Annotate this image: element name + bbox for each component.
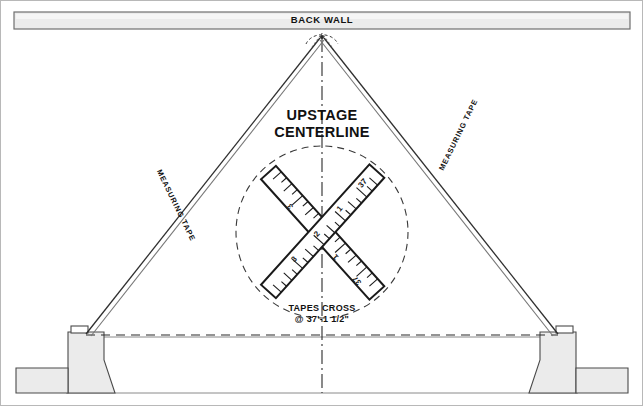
stage-right-apron: [576, 368, 628, 393]
stage-right-tab: [556, 326, 573, 333]
back-wall-label: BACK WALL: [0, 14, 644, 25]
upstage-centerline-label: UPSTAGE CENTERLINE: [0, 107, 644, 141]
apex-point: [320, 35, 324, 39]
upstage-centerline-label-line2: CENTERLINE: [0, 124, 644, 141]
diagram-canvas: 3 2 1 37: [0, 0, 644, 407]
tapes-cross-label: TAPES CROSS @ 37'-1 1/2": [0, 303, 644, 325]
tapes-cross-label-line1: TAPES CROSS: [0, 303, 644, 314]
tapes-cross-dimension: @ 37'-1 1/2": [0, 314, 644, 325]
stage-left-tab: [71, 326, 88, 333]
stage-diagram-svg: 3 2 1 37: [0, 0, 644, 407]
upstage-centerline-label-line1: UPSTAGE: [0, 107, 644, 124]
stage-left-apron: [16, 368, 68, 393]
